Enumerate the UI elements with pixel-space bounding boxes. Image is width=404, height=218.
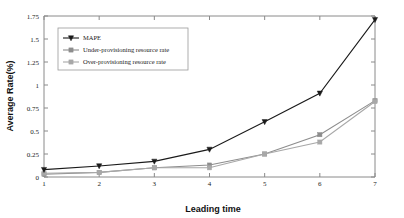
- x-tick-label: 6: [318, 180, 322, 188]
- x-tick-label: 2: [97, 180, 101, 188]
- series-line: [44, 102, 375, 174]
- data-point-marker: [263, 152, 267, 156]
- y-tick-label: 0.75: [27, 105, 40, 113]
- data-point-marker: [69, 60, 73, 64]
- data-point-marker: [152, 166, 156, 170]
- y-tick-label: 0: [36, 174, 40, 182]
- line-chart: 00.250.50.7511.251.51.751234567 Leading …: [0, 0, 404, 218]
- data-point-marker: [318, 133, 322, 137]
- x-tick-label: 5: [263, 180, 267, 188]
- chart-container: 00.250.50.7511.251.51.751234567 Leading …: [0, 0, 404, 218]
- y-axis-title: Average Rate(%): [5, 60, 15, 131]
- x-tick-label: 1: [42, 180, 46, 188]
- y-tick-label: 1: [36, 82, 40, 90]
- x-tick-label: 4: [208, 180, 212, 188]
- x-tick-label: 7: [373, 180, 377, 188]
- y-tick-label: 0.5: [30, 128, 39, 136]
- legend-label-0: MAPE: [83, 34, 101, 41]
- legend-label-2: Over-provisioning resource rate: [83, 58, 166, 65]
- y-tick-label: 0.25: [27, 151, 40, 159]
- legend-label-1: Under-provisioning resource rate: [83, 46, 169, 53]
- data-point-marker: [97, 170, 101, 174]
- x-tick-label: 3: [153, 180, 157, 188]
- data-point-marker: [318, 140, 322, 144]
- y-tick-label: 1.25: [27, 59, 40, 67]
- data-point-marker: [207, 166, 211, 170]
- x-axis-title: Leading time: [185, 204, 241, 214]
- data-point-marker: [373, 99, 377, 103]
- data-point-marker: [69, 48, 73, 52]
- y-tick-label: 1.75: [27, 13, 40, 21]
- y-tick-label: 1.5: [30, 36, 39, 44]
- chart-legend: MAPEUnder-provisioning resource rateOver…: [58, 28, 188, 70]
